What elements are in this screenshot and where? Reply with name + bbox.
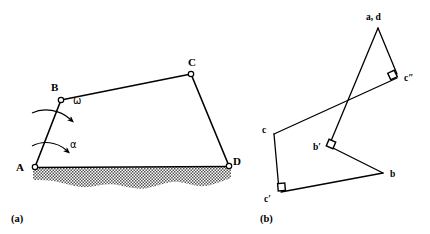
joint-D [226, 163, 231, 168]
label-joint-C: C [188, 56, 196, 68]
joint-A [32, 164, 37, 169]
label-node-b: b [390, 169, 395, 179]
caption-panel-a: (a) [11, 213, 24, 225]
label-joint-B: B [51, 81, 59, 93]
alpha-arrow [32, 143, 66, 150]
ground-hatch [33, 167, 231, 189]
link-CD [191, 74, 229, 166]
right-angle-c1 [278, 183, 286, 191]
label-joint-D: D [233, 155, 241, 167]
panel-b: a, d c″ c b′ b c′ (b) [260, 12, 413, 225]
omega-arrow [32, 110, 70, 119]
label-node-b1: b′ [313, 142, 321, 152]
panel-a: A B C D ω α (a) [11, 56, 241, 225]
edge-c2-c [274, 78, 397, 134]
ground-surface-line [33, 167, 231, 168]
figure-svg: A B C D ω α (a) a, d c″ c [0, 0, 430, 234]
label-node-c: c [262, 125, 266, 135]
edge-ad-c2 [378, 28, 397, 74]
label-node-ad: a, d [366, 12, 382, 22]
figure-root: A B C D ω α (a) a, d c″ c [0, 0, 430, 234]
label-alpha: α [70, 139, 77, 150]
edge-c-c1 [274, 134, 279, 190]
label-omega: ω [73, 95, 81, 106]
edge-c1-b [281, 173, 383, 192]
joint-B [58, 97, 63, 102]
edge-ad-b1 [331, 28, 378, 141]
label-joint-A: A [16, 161, 24, 173]
caption-panel-b: (b) [260, 213, 273, 225]
label-node-c1: c′ [264, 194, 271, 204]
right-angle-b1 [326, 139, 335, 148]
label-node-c2: c″ [404, 73, 413, 83]
joint-C [188, 71, 193, 76]
edge-b1-b [333, 148, 383, 173]
